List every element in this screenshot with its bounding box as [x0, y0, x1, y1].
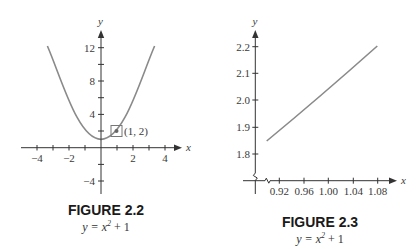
- y-tick-label: 2.0: [236, 94, 250, 106]
- x-axis-arrow-icon: [389, 178, 397, 184]
- x-axis: −4 −2 2 4 x: [21, 141, 191, 164]
- y-tick-label: 2.1: [236, 67, 250, 79]
- y-tick-label: 1.9: [236, 121, 250, 133]
- y-axis: −4 4 8 12 y: [83, 15, 104, 194]
- axis-break-icon: [253, 173, 257, 181]
- x-tick-label: −4: [31, 152, 43, 164]
- figure-formula: y = x2 + 1: [295, 231, 344, 246]
- x-tick-label: −2: [63, 152, 75, 164]
- y-axis-label: y: [252, 15, 258, 27]
- y-tick-label: 12: [84, 42, 95, 54]
- x-axis: 0.92 0.96 1.00 1.04 1.08 x: [243, 174, 406, 197]
- y-axis: 2.2 2.1 2.0 1.9 1.8 y: [236, 15, 258, 194]
- y-axis-arrow-icon: [252, 30, 258, 38]
- y-tick-label: 4: [90, 108, 96, 120]
- figure-title: FIGURE 2.3: [282, 214, 358, 230]
- figure-formula: y = x2 + 1: [81, 219, 130, 234]
- x-tick-label: 2: [130, 152, 136, 164]
- y-axis-arrow-icon: [98, 30, 104, 38]
- point-marker: (1, 2): [111, 125, 148, 138]
- y-tick-label: 1.8: [236, 148, 250, 160]
- x-tick-label: 1.04: [344, 185, 364, 197]
- x-tick-label: 0.96: [294, 185, 314, 197]
- x-tick-label: 1.08: [368, 185, 388, 197]
- x-tick-label: 4: [162, 152, 168, 164]
- x-tick-label: 0.92: [270, 185, 289, 197]
- x-tick-label: 1.00: [319, 185, 339, 197]
- figure-2-3: 2.2 2.1 2.0 1.9 1.8 y 0.92 0.96 1.00 1.0…: [236, 15, 406, 246]
- figure-title: FIGURE 2.2: [68, 202, 144, 218]
- x-axis-label: x: [185, 141, 191, 153]
- zoomed-curve: [267, 46, 378, 141]
- y-axis-label: y: [97, 15, 103, 27]
- x-axis-label: x: [400, 174, 406, 186]
- point-label: (1, 2): [124, 125, 148, 138]
- y-tick-label: 8: [90, 75, 96, 87]
- y-tick-label: 2.2: [236, 41, 250, 53]
- figure-2-2: −4 −2 2 4 x −4 4 8 12 y: [21, 15, 191, 234]
- x-axis-arrow-icon: [174, 145, 182, 151]
- figures-canvas: −4 −2 2 4 x −4 4 8 12 y: [0, 0, 418, 249]
- y-tick-label: −4: [83, 175, 95, 187]
- axis-break-icon: [265, 178, 270, 183]
